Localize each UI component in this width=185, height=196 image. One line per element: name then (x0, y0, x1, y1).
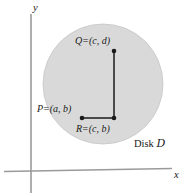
y-axis-label: y (33, 3, 38, 14)
point-r-label: R=(c, b) (76, 124, 110, 134)
disk-coordinate-diagram: y x Q=(c, d) P=(a, b) R=(c, b) Disk D (0, 0, 185, 196)
x-axis (4, 169, 172, 172)
point-q-label: Q=(c, d) (75, 36, 110, 46)
point-q-equals: = (82, 35, 89, 46)
point-q-coords: (c, d) (89, 35, 110, 46)
point-p-label: P=(a, b) (37, 104, 71, 114)
disk-label: Disk D (134, 138, 165, 150)
point-q (112, 49, 117, 54)
point-p (80, 116, 85, 121)
point-r (112, 116, 117, 121)
diagram-canvas (0, 0, 185, 196)
point-r-coords: (c, b) (89, 123, 110, 134)
disk-label-symbol: D (156, 137, 165, 150)
point-r-equals: = (82, 123, 89, 134)
disk-label-prefix: Disk (134, 138, 154, 149)
point-p-equals: = (43, 103, 50, 114)
point-p-coords: (a, b) (50, 103, 72, 114)
x-axis-label: x (174, 170, 179, 181)
